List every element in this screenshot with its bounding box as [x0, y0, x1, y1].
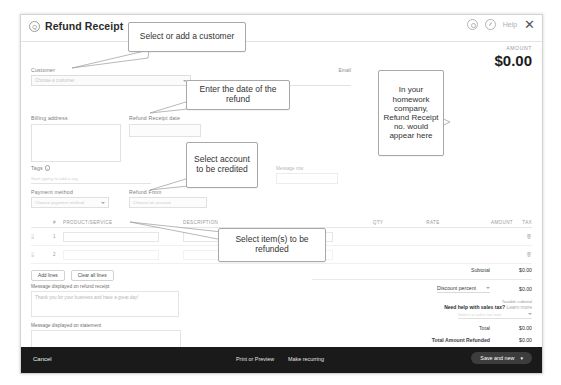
amount-label: AMOUNT: [494, 45, 532, 51]
amount-column-header: AMOUNT: [463, 220, 513, 225]
billing-address-label: Billing address: [31, 115, 121, 121]
modal-header: Q Refund Receipt Help ✕: [21, 15, 542, 42]
refund-message-label: Message displayed on refund receipt: [31, 284, 181, 289]
callout-items: Select item(s) to be refunded: [218, 228, 326, 262]
line-action-buttons: Add lines Clear all lines: [31, 270, 114, 281]
tax-column-header: TAX: [513, 220, 532, 225]
info-icon[interactable]: i: [45, 165, 51, 171]
tags-group: Tags i Start typing to add a tag: [31, 165, 151, 184]
tags-input[interactable]: Start typing to add a tag: [31, 173, 151, 184]
callout-date: Enter the date of the refund: [186, 80, 290, 110]
table-header-row: # PRODUCT/SERVICE DESCRIPTION QTY RATE A…: [31, 220, 532, 228]
close-icon[interactable]: ✕: [524, 19, 535, 30]
billing-address-group: Billing address: [31, 115, 121, 162]
callout-account: Select account to be credited: [186, 142, 258, 188]
modal-footer: Cancel Print or Preview Make recurring S…: [21, 347, 542, 373]
totals-divider: [312, 279, 532, 280]
chevron-down-icon: [528, 313, 532, 315]
discount-row: Discount percent $0.00: [312, 285, 532, 293]
chevron-down-icon[interactable]: ▾: [520, 355, 523, 361]
message-row-group: Message row: [276, 166, 338, 184]
total-row: Total $0.00: [312, 325, 532, 331]
refunded-row: Total Amount Refunded $0.00: [312, 337, 532, 343]
callout-leader-date: [148, 100, 190, 116]
total-value: $0.00: [498, 325, 532, 331]
header-actions: Help ✕: [467, 19, 535, 30]
qty-column-header: QTY: [353, 220, 403, 225]
subtotal-label: Subtotal: [471, 267, 490, 273]
drag-column-header: [31, 220, 53, 225]
callout-leader-account: [148, 176, 190, 192]
product-cell[interactable]: [63, 250, 183, 260]
customer-select[interactable]: Choose a customer: [31, 75, 191, 86]
row-number: 2: [53, 252, 63, 257]
quickbooks-logo-icon: Q: [29, 21, 40, 32]
payment-method-label: Payment method: [31, 189, 109, 195]
amount-value: $0.00: [494, 52, 532, 69]
chevron-down-icon: [101, 202, 105, 204]
callout-customer: Select or add a customer: [128, 22, 246, 52]
print-or-preview-button[interactable]: Print or Preview: [236, 356, 274, 362]
email-label: Email: [201, 67, 351, 73]
subtotal-row: Subtotal $0.00: [312, 267, 532, 273]
tags-header: Tags i: [31, 165, 151, 171]
payment-method-select[interactable]: Choose payment method: [31, 197, 109, 208]
discount-select[interactable]: Discount percent: [437, 285, 490, 293]
tags-label: Tags: [31, 165, 43, 171]
message-row-label: Message row: [276, 166, 338, 171]
sales-tax-rate-placeholder: Select a sales tax rate: [458, 312, 501, 317]
cancel-button[interactable]: Cancel: [33, 356, 52, 362]
make-recurring-button[interactable]: Make recurring: [288, 356, 324, 362]
sales-tax-help-text: Need help with sales tax?: [444, 304, 505, 310]
callout-leader-items: [128, 218, 224, 244]
gear-icon[interactable]: [467, 19, 478, 30]
refund-message-group: Message displayed on refund receipt Than…: [31, 284, 181, 317]
num-column-header: #: [53, 220, 63, 225]
drag-handle-icon[interactable]: ⣿: [31, 234, 53, 239]
page-title: Refund Receipt: [45, 20, 123, 32]
save-and-new-label: Save and new: [480, 355, 514, 361]
help-label[interactable]: Help: [503, 21, 517, 28]
chevron-down-icon: [486, 287, 490, 289]
clear-all-lines-button[interactable]: Clear all lines: [71, 270, 114, 281]
refunded-value: $0.00: [498, 337, 532, 343]
refund-from-select[interactable]: Choose an account: [129, 197, 207, 208]
add-lines-button[interactable]: Add lines: [31, 270, 65, 281]
payment-method-placeholder: Choose payment method: [35, 200, 84, 205]
refund-date-group: Refund Receipt date: [129, 115, 201, 137]
drag-handle-icon[interactable]: ⣿: [31, 252, 53, 257]
delete-row-icon[interactable]: 🗑: [513, 252, 532, 257]
header-title-group: Q Refund Receipt: [29, 20, 131, 32]
total-label: Total: [479, 325, 490, 331]
statement-message-label: Message displayed on statement: [31, 323, 181, 328]
help-circle-icon[interactable]: [485, 19, 496, 30]
refund-from-placeholder: Choose an account: [133, 200, 171, 205]
sales-tax-learn-more-link[interactable]: Learn more: [506, 304, 532, 310]
amount-summary: AMOUNT $0.00: [494, 45, 532, 69]
discount-value: $0.00: [498, 286, 532, 292]
save-and-new-button[interactable]: Save and new ▾: [471, 352, 532, 364]
customer-placeholder: Choose a customer: [35, 78, 75, 83]
callout-receipt-no: In your homework company, Refund Receipt…: [378, 70, 444, 156]
totals-panel: Subtotal $0.00 Discount percent $0.00 Ta…: [312, 267, 532, 349]
row-number: 1: [53, 234, 63, 239]
footer-mid-actions: Print or Preview Make recurring: [236, 356, 324, 362]
discount-label: Discount percent: [437, 285, 476, 291]
sales-tax-rate-select[interactable]: Select a sales tax rate: [458, 310, 532, 319]
sales-tax-help: Need help with sales tax? Learn more: [312, 304, 532, 310]
rate-column-header: RATE: [403, 220, 463, 225]
subtotal-value: $0.00: [498, 267, 532, 273]
delete-row-icon[interactable]: 🗑: [513, 234, 532, 239]
message-row-input[interactable]: [276, 173, 338, 184]
payment-method-group: Payment method Choose payment method: [31, 189, 109, 208]
refund-date-input[interactable]: [129, 124, 201, 137]
refunded-label: Total Amount Refunded: [432, 337, 490, 343]
billing-address-textarea[interactable]: [31, 124, 121, 162]
refund-message-textarea[interactable]: Thank you for your business and have a g…: [31, 291, 179, 317]
